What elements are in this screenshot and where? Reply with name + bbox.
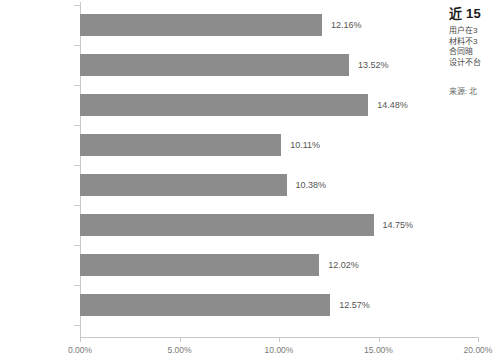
side-panel-line: 设计不台	[449, 58, 497, 69]
x-axis-tick-label: 15.00%	[364, 345, 393, 355]
bar-value-label: 12.02%	[328, 254, 359, 276]
x-axis-tick	[478, 337, 479, 342]
x-axis-tick	[379, 337, 380, 342]
bar-value-label: 12.16%	[331, 14, 362, 36]
bar	[80, 294, 330, 316]
y-axis-tick	[74, 245, 80, 246]
side-panel-line: 用户在3	[449, 26, 497, 37]
side-panel-line: 合同暗	[449, 47, 497, 58]
bar	[80, 134, 281, 156]
bar	[80, 214, 374, 236]
bar	[80, 174, 287, 196]
bar	[80, 54, 349, 76]
x-axis-tick-label: 5.00%	[167, 345, 191, 355]
y-axis-tick	[74, 45, 80, 46]
bar-value-label: 12.57%	[339, 294, 370, 316]
x-axis-tick	[279, 337, 280, 342]
side-panel-line: 材料不3	[449, 37, 497, 48]
y-axis-tick	[74, 165, 80, 166]
bar	[80, 14, 322, 36]
bar-value-label: 14.75%	[383, 214, 414, 236]
bar-value-label: 10.11%	[290, 134, 320, 156]
y-axis-tick	[74, 285, 80, 286]
bar	[80, 94, 368, 116]
side-panel-body: 用户在3材料不3合同暗设计不台	[449, 26, 497, 68]
y-axis-tick	[74, 5, 80, 6]
side-panel: 近 15 用户在3材料不3合同暗设计不台 来源: 北	[449, 6, 497, 96]
x-axis-tick	[80, 337, 81, 342]
y-axis-tick	[74, 325, 80, 326]
plot-area: 售后保障欠缺12.16%材料不环保13.52%装修质量差14.48%工期拖延10…	[0, 0, 497, 363]
y-axis-tick	[74, 125, 80, 126]
side-panel-source: 来源: 北	[449, 85, 497, 96]
bar	[80, 254, 319, 276]
x-axis-tick-label: 10.00%	[265, 345, 294, 355]
y-axis-line	[80, 2, 81, 337]
x-axis-tick	[180, 337, 181, 342]
bar-value-label: 13.52%	[358, 54, 389, 76]
y-axis-tick	[74, 85, 80, 86]
bar-value-label: 10.38%	[296, 174, 327, 196]
bar-chart: 售后保障欠缺12.16%材料不环保13.52%装修质量差14.48%工期拖延10…	[0, 0, 497, 363]
x-axis-tick-label: 20.00%	[464, 345, 493, 355]
bar-value-label: 14.48%	[377, 94, 408, 116]
x-axis-tick-label: 0.00%	[68, 345, 92, 355]
side-panel-title: 近 15	[449, 6, 497, 22]
y-axis-tick	[74, 205, 80, 206]
